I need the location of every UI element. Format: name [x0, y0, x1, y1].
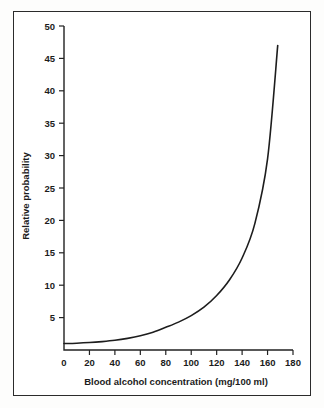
data-series-group: [64, 45, 278, 343]
x-tick-label: 180: [285, 357, 301, 368]
y-tick-label: 10: [44, 280, 55, 291]
y-tick-label: 50: [44, 21, 55, 32]
y-tick-label: 20: [44, 215, 55, 226]
figure-container: 0204060801001201401601805101520253035404…: [0, 0, 324, 408]
chart-plot: 0204060801001201401601805101520253035404…: [0, 0, 324, 408]
x-axis-title: Blood alcohol concentration (mg/100 ml): [84, 376, 268, 387]
data-curve: [64, 45, 278, 343]
y-tick-label: 5: [50, 312, 56, 323]
x-tick-label: 40: [110, 357, 121, 368]
x-tick-label: 140: [234, 357, 250, 368]
x-tick-label: 100: [183, 357, 199, 368]
y-tick-label: 40: [44, 85, 55, 96]
y-axis-title: Relative probability: [20, 151, 31, 239]
axis-spines: [64, 26, 293, 350]
x-tick-label: 20: [84, 357, 95, 368]
axes-group: [64, 26, 293, 350]
ticks-group: [59, 26, 293, 355]
y-tick-label: 35: [44, 118, 55, 129]
x-tick-label: 60: [135, 357, 146, 368]
tick-labels-group: 0204060801001201401601805101520253035404…: [44, 21, 301, 369]
x-tick-label: 80: [160, 357, 171, 368]
x-tick-label: 120: [209, 357, 225, 368]
y-tick-label: 15: [44, 247, 55, 258]
y-tick-label: 25: [44, 183, 55, 194]
x-tick-label: 160: [260, 357, 276, 368]
x-tick-label: 0: [61, 357, 66, 368]
y-tick-label: 45: [44, 53, 55, 64]
y-tick-label: 30: [44, 150, 55, 161]
